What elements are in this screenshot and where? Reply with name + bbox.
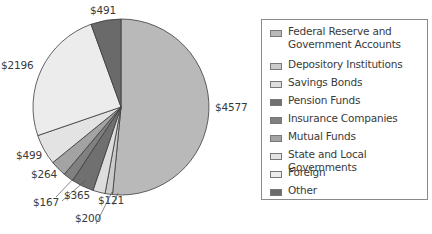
legend-swatch [270,153,282,160]
label-depository: $121 [98,194,124,206]
legend-swatch [270,30,282,37]
legend-item-other: Other [270,184,317,197]
legend-label: Insurance Companies [288,112,398,125]
label-federal-reserve: $4577 [215,101,247,113]
label-insurance: $167 [33,196,59,208]
pie-slice [112,19,208,195]
legend-label: Federal Reserve and [288,25,392,37]
chart-legend: Federal Reserve andGovernment Accounts D… [261,19,428,200]
label-other: $491 [90,4,116,16]
legend-item-pension-funds: Pension Funds [270,94,360,107]
legend-swatch [270,135,282,142]
legend-item-mutual-funds: Mutual Funds [270,130,356,143]
legend-swatch [270,189,282,196]
legend-item-savings-bonds: Savings Bonds [270,76,362,89]
legend-swatch [270,63,282,70]
legend-label: Pension Funds [288,94,360,107]
legend-item-foreign: Foreign [270,166,325,179]
legend-item-insurance: Insurance Companies [270,112,398,125]
legend-label: Other [288,184,317,197]
legend-label: Savings Bonds [288,76,362,89]
legend-label-line2: Government Accounts [288,38,401,50]
label-savings-bonds: $200 [75,212,101,224]
label-mutual-funds: $264 [31,168,57,180]
legend-swatch [270,117,282,124]
label-foreign: $2196 [1,59,33,71]
label-state-local: $499 [16,149,42,161]
legend-label: Depository Institutions [288,58,402,71]
legend-item-depository: Depository Institutions [270,58,402,71]
legend-swatch [270,81,282,88]
label-pension-funds: $365 [64,189,90,201]
legend-swatch [270,171,282,178]
legend-label: Mutual Funds [288,130,356,143]
legend-label: Foreign [288,166,325,179]
legend-swatch [270,99,282,106]
legend-item-federal-reserve: Federal Reserve andGovernment Accounts [270,25,401,50]
